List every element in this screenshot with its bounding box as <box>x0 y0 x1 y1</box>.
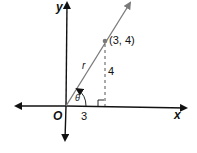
y-axis-negative <box>65 106 66 140</box>
right-angle-mark <box>98 100 104 106</box>
terminal-ray <box>66 3 130 106</box>
point-label: (3, 4) <box>109 35 135 46</box>
x-axis <box>66 106 186 108</box>
y-axis-label: y <box>56 1 63 13</box>
x-axis-label: x <box>174 109 181 121</box>
diagram-canvas: y x O (3, 4) r 4 3 θ <box>0 0 197 153</box>
horizontal-length-label: 3 <box>81 111 87 122</box>
point-marker <box>103 39 108 44</box>
vertical-length-label: 4 <box>108 66 114 77</box>
angle-label: θ <box>75 94 80 103</box>
coordinate-diagram <box>0 0 197 153</box>
origin-label: O <box>53 110 62 122</box>
hypotenuse-label: r <box>82 61 85 71</box>
y-axis <box>66 3 67 106</box>
